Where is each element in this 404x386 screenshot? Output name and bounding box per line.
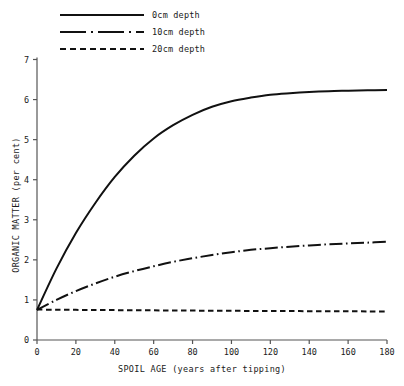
x-tick-label: 60: [149, 347, 159, 357]
y-tick-label: 7: [11, 55, 29, 65]
series-line-0cm-depth: [37, 90, 387, 310]
y-tick-label: 0: [11, 335, 29, 345]
y-axis-title: ORGANIC MATTER (per cent): [11, 105, 21, 305]
x-tick-label: 20: [71, 347, 81, 357]
y-tick-label: 6: [11, 95, 29, 105]
x-tick-label: 120: [263, 347, 278, 357]
x-tick-label: 80: [187, 347, 197, 357]
x-tick-label: 100: [224, 347, 239, 357]
chart-plot-area: [0, 0, 404, 386]
x-tick-label: 40: [110, 347, 120, 357]
x-axis-title: SPOIL AGE (years after tipping): [0, 364, 404, 374]
series-line-10cm-depth: [37, 242, 387, 310]
x-tick-label: 160: [340, 347, 355, 357]
series-line-20cm-depth: [37, 310, 387, 312]
x-tick-label: 180: [379, 347, 394, 357]
x-tick-label: 0: [34, 347, 39, 357]
chart-figure: 0cm depth 10cm depth 20cm depth 02040608…: [0, 0, 404, 386]
x-tick-label: 140: [302, 347, 317, 357]
